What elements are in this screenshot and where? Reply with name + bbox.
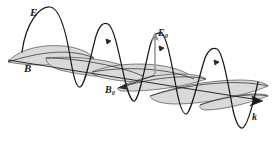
e-amplitude-label-subscript: 0 (165, 32, 168, 39)
em-wave-figure: E B E0 B0 k (0, 0, 272, 153)
e-field-label: E (30, 7, 37, 18)
e-curve-direction-markers (106, 39, 219, 65)
e-marker-icon-2 (159, 46, 164, 51)
b-field-lobes (8, 46, 268, 110)
b-amplitude-label: B0 (105, 85, 115, 95)
b-field-label: B (24, 63, 31, 74)
e-amplitude-label-base: E (158, 27, 165, 38)
e-marker-icon-3 (214, 60, 219, 65)
b-amplitude-label-subscript: 0 (112, 89, 115, 96)
em-wave-svg (0, 0, 272, 153)
e-marker-icon-1 (106, 39, 111, 44)
e-amplitude-label: E0 (158, 28, 168, 38)
wave-vector-label: k (252, 112, 257, 122)
b-amplitude-label-base: B (105, 84, 112, 95)
